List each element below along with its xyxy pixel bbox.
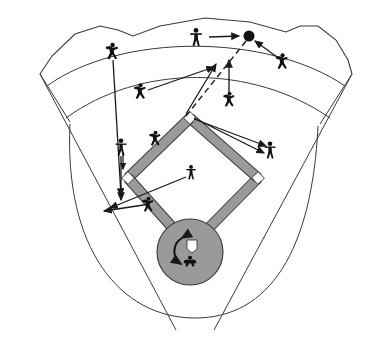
warning-track-arc bbox=[47, 46, 345, 86]
player-glyph-standing bbox=[115, 139, 126, 156]
home-plate-area bbox=[157, 219, 223, 285]
field-canvas bbox=[0, 0, 384, 341]
player-glyph-standing bbox=[190, 28, 202, 46]
player-right-fielder bbox=[276, 53, 288, 69]
player-glyph-running bbox=[149, 131, 160, 146]
player-first-baseman bbox=[264, 142, 275, 159]
player-pitcher bbox=[186, 165, 196, 180]
arrow-left-center-to-cutoff bbox=[148, 67, 214, 90]
player-third-baseman bbox=[115, 139, 126, 156]
baseball bbox=[244, 31, 255, 42]
player-glyph-running bbox=[223, 92, 234, 107]
arrow-right-fielder-to-ball bbox=[255, 41, 277, 57]
player-glyph-standing bbox=[186, 165, 196, 180]
ground-edge-left bbox=[40, 74, 70, 122]
home-plate-circle bbox=[157, 219, 223, 285]
arrow-left-fielder-long-run bbox=[113, 60, 121, 196]
baseline-second-to-third-fill bbox=[128, 118, 190, 178]
baseball-play-diagram bbox=[0, 0, 384, 341]
baseline-first-to-second-fill bbox=[190, 118, 258, 178]
player-second-baseman bbox=[223, 92, 234, 107]
player-shortstop bbox=[149, 131, 160, 146]
infield-grass-arc bbox=[66, 78, 330, 119]
arrow-center-fielder-to-ball bbox=[209, 36, 239, 37]
player-glyph-running bbox=[276, 53, 288, 69]
player-glyph-standing bbox=[264, 142, 275, 159]
player-center-fielder bbox=[190, 28, 202, 46]
ground-edge-right bbox=[320, 74, 352, 124]
